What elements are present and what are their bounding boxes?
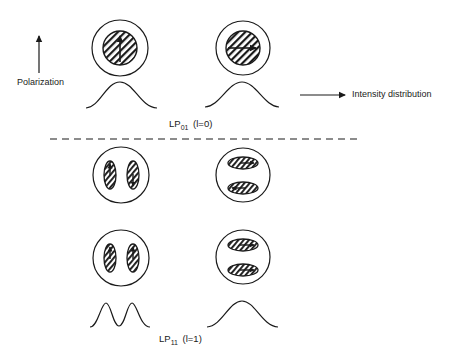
lp11-intensity-profile-double-peak xyxy=(90,303,150,327)
lp11-mode-name: LP xyxy=(159,333,171,344)
lp01-intensity-profile-right xyxy=(205,82,279,107)
lp11-mode-vertical-lobes-opposite xyxy=(93,147,149,203)
lp11-intensity-profile-single-peak xyxy=(207,301,278,327)
lp11-mode-subscript: 11 xyxy=(171,339,178,346)
lp11-mode-horizontal-lobes-opposite xyxy=(216,148,270,202)
lp01-mode-label: LP01 (l=0) xyxy=(169,118,212,131)
lp01-mode-x-polarized-up xyxy=(92,20,148,76)
mode-diagram xyxy=(0,0,456,358)
lp01-mode-subscript: 01 xyxy=(181,124,189,131)
polarization-label: Polarization xyxy=(17,77,64,87)
lp01-intensity-profile-left xyxy=(86,82,157,108)
lp01-mode-name: LP xyxy=(169,118,181,129)
lp11-mode-horizontal-lobes-parallel xyxy=(216,230,270,284)
lp11-mode-vertical-lobes-parallel xyxy=(93,230,149,286)
intensity-distribution-label: Intensity distribution xyxy=(352,89,432,99)
lp01-mode-y-polarized-right xyxy=(216,21,270,75)
lp11-mode-param: (l=1) xyxy=(183,333,202,344)
lp11-mode-label: LP11 (l=1) xyxy=(159,333,202,346)
lp01-mode-param: (l=0) xyxy=(193,118,212,129)
